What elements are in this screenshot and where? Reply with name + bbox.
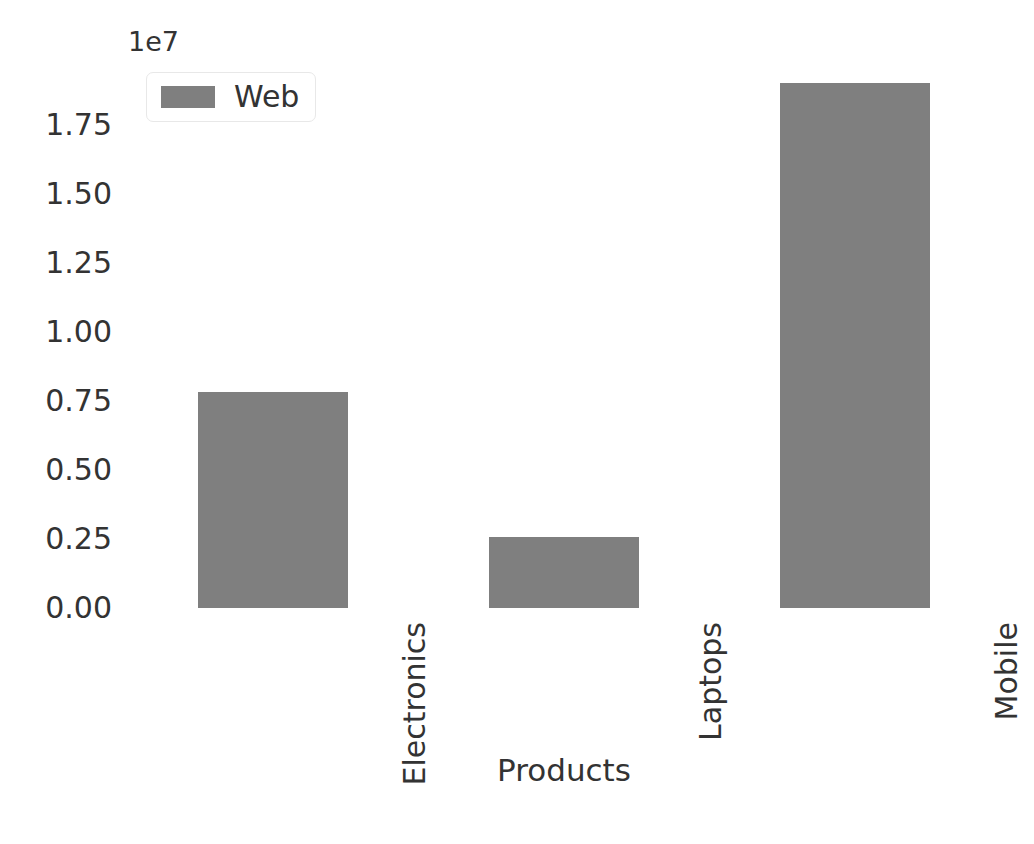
y-tick-label: 1.25 (0, 248, 112, 278)
chart-legend[interactable]: Web (146, 72, 316, 122)
y-axis-offset-label: 1e7 (128, 28, 179, 55)
legend-color-swatch (161, 86, 215, 108)
y-tick-label: 1.75 (0, 110, 112, 140)
y-tick-label: 1.50 (0, 179, 112, 209)
x-tick-label: Laptops (696, 622, 726, 741)
bar-chart-figure: 1e7 1.75 1.50 1.25 1.00 0.75 0.50 0.25 0… (0, 0, 1034, 844)
y-tick-label: 0.00 (0, 593, 112, 623)
y-tick-label: 0.25 (0, 524, 112, 554)
bar (780, 83, 930, 608)
bar (198, 392, 348, 608)
x-tick-label: Mobile (992, 622, 1022, 720)
y-tick-label: 1.00 (0, 317, 112, 347)
x-tick-label-text: Mobile (992, 622, 1022, 720)
bar (489, 537, 639, 608)
x-axis-title: Products (128, 755, 1000, 786)
y-tick-label: 0.75 (0, 386, 112, 416)
x-tick-label-text: Laptops (696, 622, 726, 741)
legend-label: Web (234, 82, 299, 112)
y-tick-label: 0.50 (0, 455, 112, 485)
bar-series-web (128, 60, 1000, 608)
y-axis-tick-labels: 1.75 1.50 1.25 1.00 0.75 0.50 0.25 0.00 (0, 60, 112, 608)
